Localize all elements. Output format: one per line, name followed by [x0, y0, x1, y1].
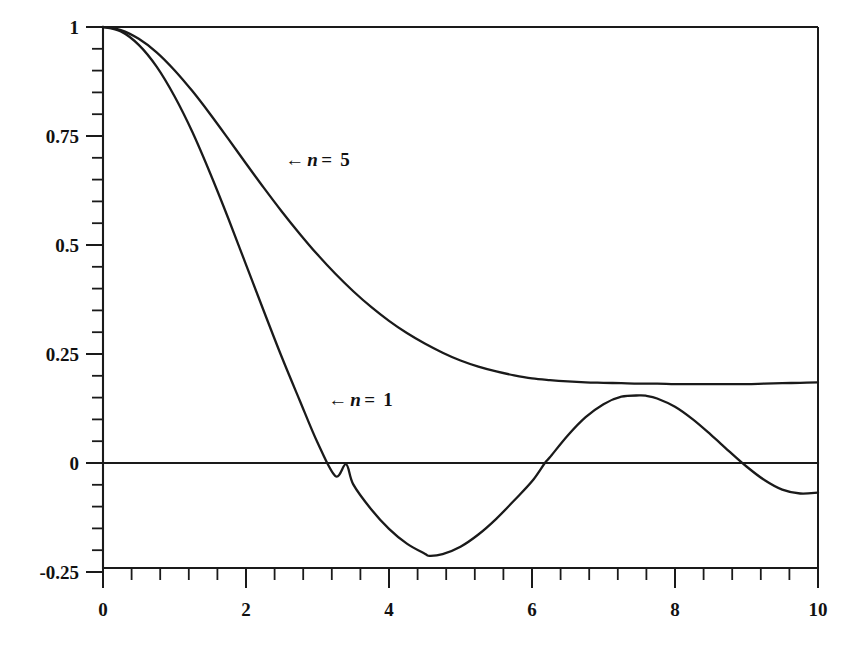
y-tick-label: 0 — [70, 453, 80, 474]
annotation-5: ←n=5 — [285, 149, 350, 170]
annotation-symbol: n — [307, 149, 318, 170]
x-tick-label: 2 — [241, 599, 251, 620]
x-tick-label: 8 — [670, 599, 680, 620]
x-axis-tick-labels: 0246810 — [98, 599, 827, 620]
series-curve-n-1 — [103, 27, 818, 556]
annotation-1: ←n=1 — [328, 389, 393, 410]
x-tick-label: 10 — [809, 599, 828, 620]
chart-svg: 10.750.50.250-0.25 0246810 ←n=5←n=1 — [0, 0, 849, 649]
data-curves — [103, 27, 818, 556]
series-annotations: ←n=5←n=1 — [285, 149, 392, 410]
chart-figure: 10.750.50.250-0.25 0246810 ←n=5←n=1 — [0, 0, 849, 649]
plot-frame — [103, 27, 818, 568]
annotation-arrow-icon: ← — [285, 149, 304, 170]
y-tick-label: -0.25 — [39, 562, 79, 583]
y-tick-label: 0.5 — [55, 235, 79, 256]
y-axis-tick-labels: 10.750.50.250-0.25 — [39, 17, 79, 583]
x-tick-label: 4 — [384, 599, 394, 620]
y-tick-label: 0.75 — [46, 126, 79, 147]
annotation-symbol: n — [350, 389, 361, 410]
x-tick-label: 0 — [98, 599, 108, 620]
annotation-equals: = — [321, 149, 332, 170]
annotation-value: 1 — [383, 389, 393, 410]
annotation-equals: = — [364, 389, 375, 410]
y-tick-label: 0.25 — [46, 344, 79, 365]
y-tick-label: 1 — [70, 17, 80, 38]
series-curve-n-5 — [103, 27, 818, 384]
annotation-arrow-icon: ← — [328, 389, 347, 410]
annotation-value: 5 — [340, 149, 350, 170]
y-axis-ticks — [86, 27, 103, 572]
x-axis-ticks — [103, 568, 818, 588]
x-tick-label: 6 — [527, 599, 537, 620]
